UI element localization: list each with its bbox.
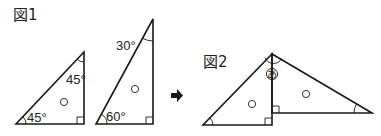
- right-triangle-outline: [272, 54, 372, 113]
- angle-label-top: 45°: [66, 72, 86, 87]
- angle-arc-bottom-left: [210, 118, 213, 125]
- angle-label-bottom-left: 45°: [27, 110, 47, 125]
- angle-arc-top: [77, 59, 84, 62]
- unknown-angle-marker: あ: [265, 58, 282, 80]
- angle-arc-top: [143, 38, 154, 41]
- figure-1: 図1 45° 45° 60° 30°: [13, 6, 153, 125]
- angle-label-top: 30°: [116, 38, 136, 53]
- figure-1-label: 図1: [13, 6, 38, 24]
- triangle-45-degree: 45° 45°: [16, 52, 86, 125]
- right-angle-mark: [265, 118, 272, 125]
- angle-label-a: あ: [267, 69, 277, 80]
- angle-label-bottom-left: 60°: [106, 109, 126, 124]
- figure-2-right-triangle: [272, 54, 372, 113]
- right-angle-mark: [77, 117, 84, 124]
- equal-side-mark: [60, 98, 67, 105]
- figure-2-label: 図2: [203, 53, 228, 71]
- right-angle-mark: [146, 117, 153, 124]
- diagram-canvas: 図1 45° 45° 60° 30° 図2: [0, 0, 381, 136]
- right-angle-mark: [272, 106, 279, 113]
- equal-side-mark: [302, 90, 309, 97]
- equal-side-mark: [248, 100, 255, 107]
- angle-arc-right: [354, 104, 357, 113]
- triangle-30-60-degree: 60° 30°: [96, 19, 153, 124]
- right-arrow-icon: [171, 89, 183, 102]
- figure-2: 図2 あ: [203, 53, 372, 125]
- equal-side-mark: [131, 85, 138, 92]
- angle-arc-bottom-left: [23, 117, 26, 124]
